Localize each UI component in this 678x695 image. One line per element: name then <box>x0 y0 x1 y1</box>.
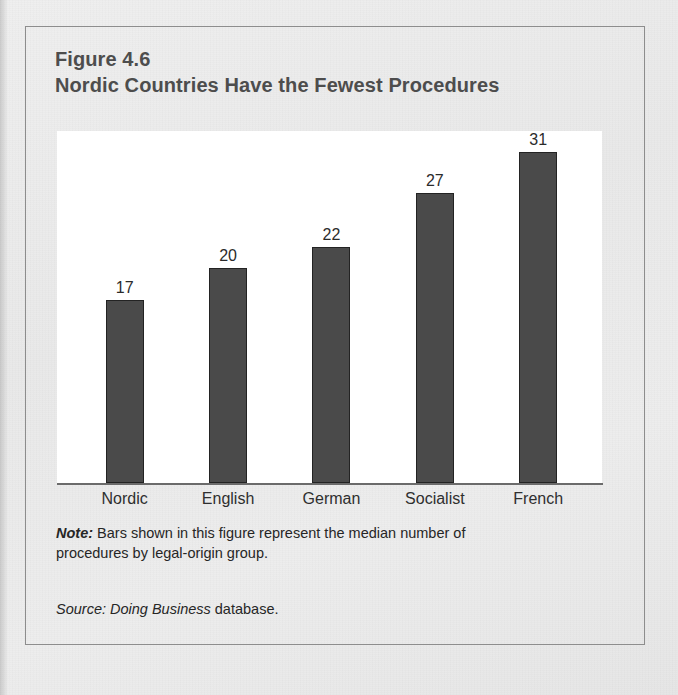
bar-nordic <box>106 300 144 483</box>
figure-content: Figure 4.6 Nordic Countries Have the Few… <box>26 27 644 644</box>
x-axis-tick-labels: Nordic English German Socialist French <box>73 490 590 508</box>
x-tick-label-german: German <box>296 490 366 508</box>
bar-value-label: 31 <box>529 131 547 149</box>
bar-german <box>312 247 350 483</box>
x-tick-label-english: English <box>193 490 263 508</box>
chart-plot-panel: 17 20 22 27 <box>57 131 602 483</box>
x-tick-label-nordic: Nordic <box>90 490 160 508</box>
figure-frame: Figure 4.6 Nordic Countries Have the Few… <box>25 26 645 645</box>
figure-note: Note: Bars shown in this figure represen… <box>56 523 526 563</box>
source-rest-text: database. <box>211 601 279 617</box>
bar-english <box>209 268 247 483</box>
bar-slot: 20 <box>193 131 263 483</box>
note-lead-label: Note: <box>56 525 93 541</box>
x-axis-line <box>57 483 603 485</box>
chart-plot-area: 17 20 22 27 <box>57 131 602 483</box>
bar-slot: 27 <box>400 131 470 483</box>
figure-source: Source: Doing Business database. <box>56 599 526 619</box>
bar-socialist <box>416 193 454 483</box>
figure-title-block: Figure 4.6 Nordic Countries Have the Few… <box>55 47 615 98</box>
bar-slot: 31 <box>503 131 573 483</box>
source-publication-name: Doing Business <box>106 601 211 617</box>
bar-value-label: 17 <box>116 279 134 297</box>
x-tick-label-socialist: Socialist <box>400 490 470 508</box>
note-body-text: Bars shown in this figure represent the … <box>56 525 465 561</box>
bar-slot: 22 <box>296 131 366 483</box>
x-tick-label-french: French <box>503 490 573 508</box>
figure-number-label: Figure 4.6 <box>55 47 615 72</box>
source-lead-label: Source: <box>56 601 106 617</box>
bar-value-label: 22 <box>323 226 341 244</box>
bar-slot: 17 <box>90 131 160 483</box>
bar-value-label: 27 <box>426 172 444 190</box>
bar-value-label: 20 <box>219 247 237 265</box>
bar-series-group: 17 20 22 27 <box>73 131 590 483</box>
page-edge-shadow <box>0 0 8 695</box>
bar-french <box>519 152 557 483</box>
page-title: Nordic Countries Have the Fewest Procedu… <box>55 72 615 98</box>
